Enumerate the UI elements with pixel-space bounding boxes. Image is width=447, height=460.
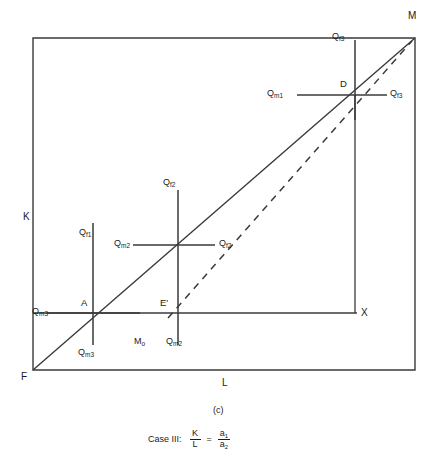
qm3b-sub2: 3 xyxy=(90,351,94,358)
qm2l-sub2: 2 xyxy=(126,242,130,249)
case-label: Case III: xyxy=(148,434,182,444)
qf1-q: Q xyxy=(79,227,86,237)
m-zero-sub: o xyxy=(142,340,146,347)
qm1l-q: Q xyxy=(267,88,274,98)
label-qf3-top: Qf3 xyxy=(332,32,344,42)
qm2b-sub2: 2 xyxy=(178,340,182,347)
dashed-ray-e-prime-to-d xyxy=(168,41,412,318)
label-qf1-top: Qf1 xyxy=(79,228,91,238)
qf3r-q: Q xyxy=(390,88,397,98)
fraction-denominator-a2: a2 xyxy=(218,440,230,450)
qm2b-q: Q xyxy=(166,336,173,346)
qm3b-q: Q xyxy=(78,347,85,357)
label-f-origin: F xyxy=(21,372,27,382)
label-qf3-right: Qf3 xyxy=(390,89,402,99)
label-point-d: D xyxy=(340,79,347,89)
label-point-a: A xyxy=(81,298,87,308)
qf2t-q: Q xyxy=(163,177,170,187)
fraction-k-over-l: K L xyxy=(190,429,201,449)
fraction-numerator-k: K xyxy=(190,429,200,438)
qm3l-sub2: 3 xyxy=(44,310,48,317)
equals-sign: = xyxy=(207,434,212,444)
label-qm3-left: Qm3 xyxy=(32,307,48,317)
qf2r-q: Q xyxy=(219,238,226,248)
qm3l-q: Q xyxy=(32,306,39,316)
label-m-corner: M xyxy=(408,11,416,21)
label-qm1-left: Qm1 xyxy=(267,89,283,99)
qf2r-sub2: 2 xyxy=(228,242,232,249)
label-k-axis: K xyxy=(23,212,30,222)
diagram-canvas xyxy=(0,0,447,460)
label-point-m-zero: Mo xyxy=(134,337,145,347)
label-x-point: X xyxy=(361,308,368,318)
fraction-a1-over-a2: a1 a2 xyxy=(218,429,230,450)
qf3t-sub2: 3 xyxy=(341,35,345,42)
label-l-axis: L xyxy=(222,378,228,388)
qf2t-sub2: 2 xyxy=(172,181,176,188)
a2-sub: 2 xyxy=(225,443,228,449)
a1-sub: 1 xyxy=(225,433,228,439)
qf1-sub2: 1 xyxy=(88,231,92,238)
label-qm2-left: Qm2 xyxy=(114,239,130,249)
qf3r-sub2: 3 xyxy=(399,92,403,99)
label-qm2-bottom: Qm2 xyxy=(166,337,182,347)
case-equation-line: Case III: K L = a1 a2 xyxy=(148,429,230,450)
label-point-e-prime: E' xyxy=(160,298,168,308)
diagonal-expansion-path xyxy=(33,38,415,370)
m-zero-base: M xyxy=(134,336,142,346)
figure-caption: (c) xyxy=(213,405,224,415)
qm1l-sub2: 1 xyxy=(279,92,283,99)
qm2l-q: Q xyxy=(114,238,121,248)
fraction-numerator-a1: a1 xyxy=(218,429,230,439)
label-qf2-right: Qf2 xyxy=(219,239,231,249)
fraction-denominator-l: L xyxy=(191,440,200,449)
qf3t-q: Q xyxy=(332,31,339,41)
figure-container: M F K L X A D E' Mo Qf1 Qm3 Qm3 Qf2 Qm2 … xyxy=(0,0,447,460)
label-qm3-bottom: Qm3 xyxy=(78,348,94,358)
label-qf2-top: Qf2 xyxy=(163,178,175,188)
